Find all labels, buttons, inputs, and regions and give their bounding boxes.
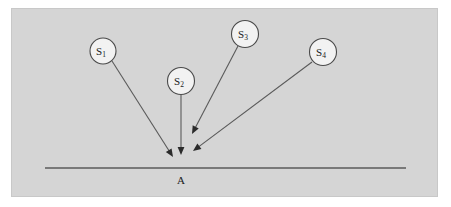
source-s3-subscript: 3 <box>244 33 248 42</box>
source-s3: S3 <box>232 21 259 48</box>
source-s2: S2 <box>168 68 195 95</box>
source-s1: S1 <box>90 38 116 64</box>
ray-convergence-diagram: S1 S2 S3 S4 A <box>0 0 451 207</box>
source-s4-subscript: 4 <box>322 51 326 60</box>
figure-root: S1 S2 S3 S4 A <box>0 0 451 207</box>
surface-point-label: A <box>177 174 185 186</box>
source-s2-subscript: 2 <box>180 80 184 89</box>
source-s4: S4 <box>310 39 337 66</box>
source-s1-subscript: 1 <box>102 50 106 59</box>
